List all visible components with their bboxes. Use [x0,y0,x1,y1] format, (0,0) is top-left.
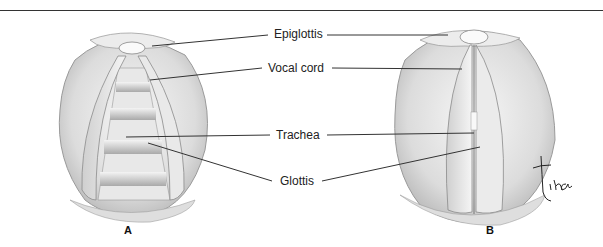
panel-label-a: A [124,224,132,236]
label-trachea: Trachea [276,128,320,142]
label-epiglottis: Epiglottis [274,27,323,41]
panel-label-b: B [486,224,494,236]
label-vocal-cord: Vocal cord [268,61,324,75]
label-glottis: Glottis [280,174,314,188]
panel-a-larynx [59,33,207,222]
panel-b-larynx [395,30,555,225]
